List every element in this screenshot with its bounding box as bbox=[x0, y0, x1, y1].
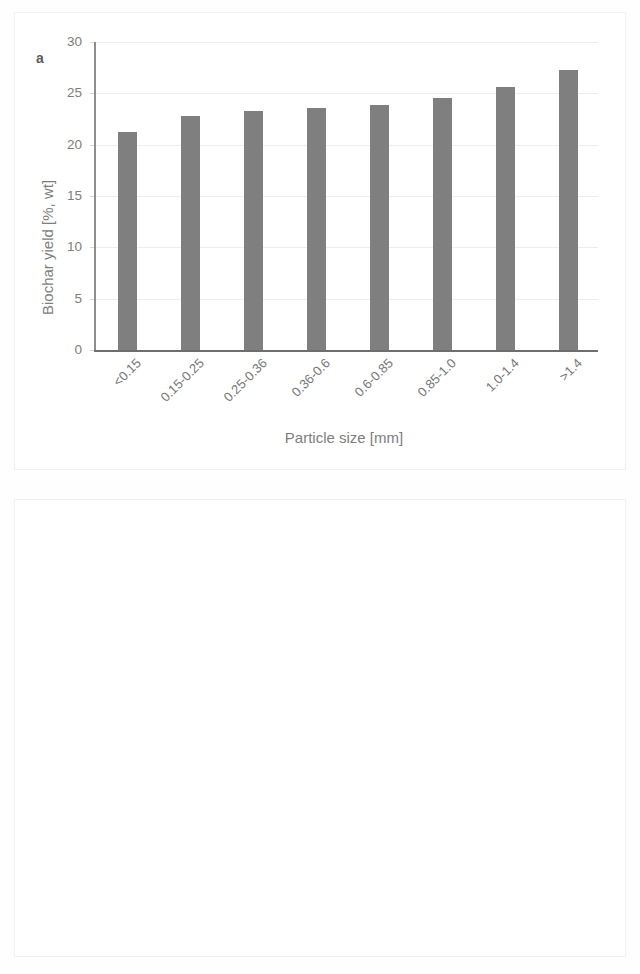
y-axis-tick-label: 5 bbox=[48, 292, 82, 306]
gridline bbox=[96, 247, 598, 248]
bar bbox=[307, 108, 326, 350]
bar bbox=[433, 98, 452, 350]
y-axis-tick-label: 25 bbox=[48, 86, 82, 100]
gridline bbox=[96, 196, 598, 197]
figure-page: a Biochar yield [%, wt] 051015202530<0.1… bbox=[0, 0, 640, 974]
y-axis-tick-label: 20 bbox=[48, 138, 82, 152]
panel-a-plot-area: 051015202530<0.150.15-0.250.25-0.360.36-… bbox=[0, 0, 640, 487]
y-axis-line bbox=[94, 42, 96, 351]
gridline bbox=[96, 42, 598, 43]
bar bbox=[496, 87, 515, 350]
bar bbox=[370, 105, 389, 350]
bar bbox=[244, 111, 263, 350]
gridline bbox=[96, 299, 598, 300]
panel-a-x-axis-title: Particle size [mm] bbox=[94, 430, 594, 445]
bar bbox=[559, 70, 578, 350]
y-axis-tick-label: 15 bbox=[48, 189, 82, 203]
panel-b-plot-area: 010203040506070<0.150.15-0.250.25-0.360.… bbox=[0, 487, 640, 974]
chart-panel-a: a Biochar yield [%, wt] 051015202530<0.1… bbox=[0, 0, 640, 487]
y-axis-tick-label: 10 bbox=[48, 240, 82, 254]
y-axis-tick-label: 30 bbox=[48, 35, 82, 49]
gridline bbox=[96, 93, 598, 94]
y-axis-tick-label: 0 bbox=[48, 343, 82, 357]
chart-panel-b: b Apparent activation energy [kJ/mol] 01… bbox=[0, 487, 640, 974]
gridline bbox=[96, 145, 598, 146]
x-axis-line bbox=[94, 350, 598, 352]
bar bbox=[118, 132, 137, 350]
bar bbox=[181, 116, 200, 350]
